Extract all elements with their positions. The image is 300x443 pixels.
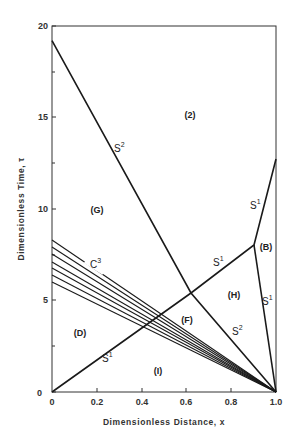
- x-tick-0.4: 0.4: [136, 397, 149, 407]
- region-d: (D): [74, 328, 87, 338]
- region-b: (B): [260, 242, 273, 252]
- label-s2-upper: S2: [114, 141, 125, 154]
- y-tick-0: 0: [37, 388, 42, 398]
- x-tick-1.0: 1.0: [270, 397, 283, 407]
- curves: [52, 41, 276, 392]
- x-tick-0.8: 0.8: [225, 397, 238, 407]
- label-s2-lower: S2: [232, 324, 243, 337]
- y-axis-title: Dimensionless Time, τ: [16, 157, 26, 260]
- x-axis-ticks: [97, 388, 231, 392]
- s1-shock: [52, 159, 276, 392]
- y-tick-15: 15: [38, 112, 48, 122]
- x-tick-0.6: 0.6: [180, 397, 193, 407]
- region-h: (H): [228, 290, 241, 300]
- region-g: (G): [91, 205, 104, 215]
- label-s1-right: S1: [262, 294, 273, 307]
- x-axis-title: Dimensionless Distance, x: [103, 417, 225, 427]
- chart: 0 5 10 15 20 0 0.2 0.4 0.6 0.8 1.0 Dimen…: [0, 0, 300, 443]
- s2-shock: [52, 41, 276, 392]
- label-s1-lower: S1: [102, 351, 113, 364]
- y-tick-5: 5: [43, 295, 48, 305]
- x-tick-0: 0: [49, 397, 54, 407]
- y-tick-20: 20: [38, 21, 48, 31]
- region-2: (2): [185, 110, 196, 120]
- label-s1-middle: S1: [213, 255, 224, 268]
- y-axis-ticks: [52, 26, 56, 392]
- label-s1-upper: S1: [250, 198, 261, 211]
- x-tick-0.2: 0.2: [91, 397, 104, 407]
- region-f: (F): [181, 315, 193, 325]
- y-tick-10: 10: [38, 204, 48, 214]
- region-i: (I): [154, 366, 163, 376]
